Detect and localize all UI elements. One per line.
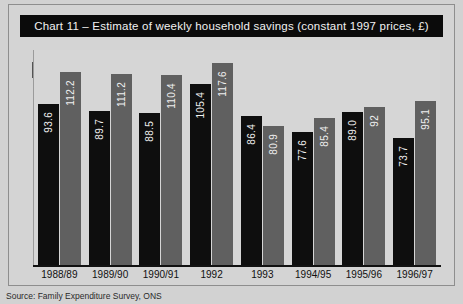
bar-uk-1990-91: 110.4 bbox=[161, 75, 182, 265]
bar-group: 88.5110.4 bbox=[136, 50, 187, 265]
bar-value-label: 112.2 bbox=[65, 80, 76, 106]
bar-value-label: 95.1 bbox=[420, 109, 431, 130]
x-tick-label: 1993 bbox=[237, 269, 288, 280]
bar-value-label: 73.7 bbox=[398, 146, 409, 167]
bar-value-label: 86.4 bbox=[246, 124, 257, 145]
bar-uk-1989-90: 111.2 bbox=[111, 74, 132, 265]
bar-uk-1994-95: 85.4 bbox=[314, 118, 335, 265]
bar-value-label: 92 bbox=[369, 115, 380, 127]
bar-scotland-1990-91: 88.5 bbox=[139, 113, 160, 265]
bar-value-label: 80.9 bbox=[268, 134, 279, 155]
bar-uk-1996-97: 95.1 bbox=[415, 101, 436, 265]
bar-uk-1993: 80.9 bbox=[263, 126, 284, 265]
x-tick-label: 1989/90 bbox=[85, 269, 136, 280]
bar-scotland-1992: 105.4 bbox=[190, 84, 211, 265]
page-title: Chart 11 – Estimate of weekly household … bbox=[34, 20, 429, 32]
bar-scotland-1996-97: 73.7 bbox=[393, 138, 414, 265]
x-tick-label: 1996/97 bbox=[389, 269, 440, 280]
bar-group: 86.480.9 bbox=[237, 50, 288, 265]
x-axis-line bbox=[33, 265, 441, 267]
bar-group: 105.4117.6 bbox=[186, 50, 237, 265]
bar-scotland-1989-90: 89.7 bbox=[89, 111, 110, 265]
x-tick-label: 1995/96 bbox=[339, 269, 390, 280]
x-tick-label: 1994/95 bbox=[288, 269, 339, 280]
x-tick-label: 1988/89 bbox=[34, 269, 85, 280]
bar-uk-1995-96: 92 bbox=[364, 107, 385, 265]
bar-value-label: 89.0 bbox=[347, 120, 358, 141]
bar-value-label: 117.6 bbox=[217, 71, 228, 97]
bar-group: 89.7111.2 bbox=[85, 50, 136, 265]
bar-value-label: 88.5 bbox=[144, 121, 155, 142]
x-tick-label: 1992 bbox=[186, 269, 237, 280]
bar-scotland-1995-96: 89.0 bbox=[342, 112, 363, 265]
x-tick-label: 1990/91 bbox=[136, 269, 187, 280]
bar-group: 73.795.1 bbox=[389, 50, 440, 265]
bar-value-label: 111.2 bbox=[116, 82, 127, 107]
chart-title-banner: Chart 11 – Estimate of weekly household … bbox=[20, 15, 443, 37]
bar-group: 77.685.4 bbox=[288, 50, 339, 265]
bar-uk-1992: 117.6 bbox=[212, 63, 233, 265]
bar-value-label: 105.4 bbox=[195, 92, 206, 119]
bar-uk-1988-89: 112.2 bbox=[60, 72, 81, 265]
bar-value-label: 85.4 bbox=[319, 126, 330, 147]
bar-value-label: 110.4 bbox=[166, 83, 177, 109]
bar-scotland-1988-89: 93.6 bbox=[38, 104, 59, 265]
x-axis-tick-labels: 1988/891989/901990/91199219931994/951995… bbox=[34, 269, 440, 280]
bar-groups: 93.6112.289.7111.288.5110.4105.4117.686.… bbox=[34, 50, 440, 265]
bar-group: 89.092 bbox=[339, 50, 390, 265]
bar-value-label: 77.6 bbox=[297, 140, 308, 161]
page-background: Chart 11 – Estimate of weekly household … bbox=[0, 0, 463, 304]
bar-group: 93.6112.2 bbox=[34, 50, 85, 265]
bar-value-label: 89.7 bbox=[94, 119, 105, 140]
bar-value-label: 93.6 bbox=[43, 112, 54, 133]
source-note: Source: Family Expenditure Survey, ONS bbox=[6, 291, 162, 301]
bar-scotland-1994-95: 77.6 bbox=[292, 132, 313, 265]
chart-figure: Chart 11 – Estimate of weekly household … bbox=[8, 4, 455, 286]
bar-scotland-1993: 86.4 bbox=[241, 116, 262, 265]
